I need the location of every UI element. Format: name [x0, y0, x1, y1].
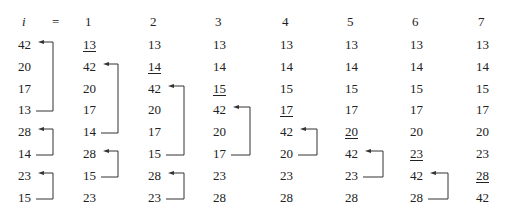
swap-arrows: [0, 0, 505, 212]
swap-arrow-line: [298, 129, 317, 155]
arrowhead-icon: [430, 171, 436, 175]
swap-arrow-line: [428, 173, 448, 199]
arrowhead-icon: [168, 171, 174, 175]
arrowhead-icon: [38, 171, 44, 175]
swap-arrow-line: [36, 173, 53, 199]
arrowhead-icon: [38, 40, 44, 44]
arrowhead-icon: [300, 127, 306, 131]
swap-arrow-line: [36, 42, 53, 111]
arrowhead-icon: [365, 149, 371, 153]
swap-arrow-line: [101, 64, 118, 133]
arrowhead-icon: [103, 149, 109, 153]
swap-arrow-line: [231, 107, 250, 155]
arrowhead-icon: [233, 105, 239, 109]
swap-arrow-line: [363, 151, 383, 177]
swap-arrow-line: [36, 129, 53, 155]
swap-arrow-line: [166, 86, 184, 155]
arrowhead-icon: [38, 127, 44, 131]
arrowhead-icon: [168, 84, 174, 88]
swap-arrow-line: [166, 173, 184, 199]
arrowhead-icon: [103, 62, 109, 66]
swap-arrow-line: [101, 151, 118, 177]
